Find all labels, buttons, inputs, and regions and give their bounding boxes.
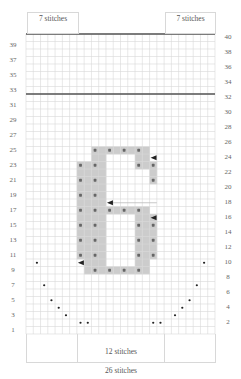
purl-dot-icon bbox=[123, 149, 126, 152]
arrow-left-icon bbox=[151, 155, 157, 160]
purl-dot-icon bbox=[79, 239, 82, 242]
purl-dot-icon bbox=[152, 224, 155, 227]
purl-dot-icon bbox=[137, 224, 140, 227]
motif-cell bbox=[150, 244, 158, 252]
motif-cell bbox=[84, 177, 92, 185]
motif-cell bbox=[142, 252, 150, 260]
purl-dot-icon bbox=[108, 149, 111, 152]
motif-cell bbox=[84, 267, 92, 275]
row-label: 35 bbox=[6, 72, 20, 79]
row-label: 36 bbox=[221, 64, 235, 71]
bottom-outer-stitch-label: 26 stitches bbox=[26, 366, 216, 375]
decrease-dot-icon bbox=[43, 284, 45, 286]
top-right-stitch-label: 7 stitches bbox=[165, 14, 216, 23]
motif-cell bbox=[84, 169, 92, 177]
motif-cell bbox=[142, 147, 150, 155]
motif-cell bbox=[99, 229, 107, 237]
motif-cell bbox=[135, 229, 143, 237]
purl-dot-icon bbox=[152, 164, 155, 167]
motif-cell bbox=[84, 199, 92, 207]
decrease-dot-icon bbox=[50, 299, 52, 301]
decrease-dot-icon bbox=[65, 314, 67, 316]
motif-cell bbox=[77, 199, 85, 207]
motif-cell bbox=[99, 154, 107, 162]
row-label: 34 bbox=[221, 79, 235, 86]
motif-cell bbox=[91, 184, 99, 192]
purl-dot-icon bbox=[152, 239, 155, 242]
decrease-dot-icon bbox=[174, 314, 176, 316]
decrease-dot-icon bbox=[58, 307, 60, 309]
motif-cell bbox=[99, 192, 107, 200]
decrease-dot-icon bbox=[159, 322, 161, 324]
motif-cell bbox=[99, 244, 107, 252]
chart-grid bbox=[0, 0, 241, 379]
motif-cell bbox=[84, 237, 92, 245]
motif-cell bbox=[142, 237, 150, 245]
motif-cell bbox=[142, 207, 150, 215]
motif-cell bbox=[135, 214, 143, 222]
row-label: 22 bbox=[221, 169, 235, 176]
motif-cell bbox=[84, 207, 92, 215]
row-label: 23 bbox=[6, 162, 20, 169]
purl-dot-icon bbox=[137, 254, 140, 257]
purl-dot-icon bbox=[108, 269, 111, 272]
purl-dot-icon bbox=[123, 209, 126, 212]
row-label: 16 bbox=[221, 214, 235, 221]
motif-cell bbox=[142, 162, 150, 170]
motif-cell bbox=[84, 222, 92, 230]
purl-dot-icon bbox=[94, 239, 97, 242]
motif-cell bbox=[99, 184, 107, 192]
purl-dot-icon bbox=[79, 164, 82, 167]
motif-cell bbox=[99, 207, 107, 215]
motif-cell bbox=[99, 259, 107, 267]
motif-cell bbox=[99, 162, 107, 170]
motif-cell bbox=[128, 207, 136, 215]
motif-cell bbox=[91, 259, 99, 267]
motif-cell bbox=[84, 162, 92, 170]
row-label: 18 bbox=[221, 199, 235, 206]
motif-cell bbox=[91, 214, 99, 222]
motif-cell bbox=[99, 147, 107, 155]
decrease-dot-icon bbox=[188, 299, 190, 301]
bottom-outer-stitch-box bbox=[26, 334, 216, 363]
row-label: 20 bbox=[221, 184, 235, 191]
row-label: 37 bbox=[6, 57, 20, 64]
motif-cell bbox=[142, 259, 150, 267]
motif-cell bbox=[91, 229, 99, 237]
motif-cell bbox=[77, 229, 85, 237]
row-label: 3 bbox=[6, 312, 20, 319]
row-label: 7 bbox=[6, 282, 20, 289]
motif-cell bbox=[77, 244, 85, 252]
row-label: 27 bbox=[6, 132, 20, 139]
row-label: 15 bbox=[6, 222, 20, 229]
motif-cell bbox=[99, 214, 107, 222]
motif-cell bbox=[84, 252, 92, 260]
row-label: 4 bbox=[221, 304, 235, 311]
motif-cell bbox=[99, 252, 107, 260]
motif-cell bbox=[84, 229, 92, 237]
motif-cell bbox=[91, 199, 99, 207]
purl-dot-icon bbox=[152, 254, 155, 257]
motif-cell bbox=[84, 244, 92, 252]
purl-dot-icon bbox=[79, 209, 82, 212]
row-label: 31 bbox=[6, 102, 20, 109]
motif-cell bbox=[150, 169, 158, 177]
row-label: 19 bbox=[6, 192, 20, 199]
motif-cell bbox=[128, 147, 136, 155]
decrease-dot-icon bbox=[181, 307, 183, 309]
row-label: 32 bbox=[221, 94, 235, 101]
purl-dot-icon bbox=[94, 269, 97, 272]
motif-cell bbox=[150, 229, 158, 237]
motif-cell bbox=[113, 147, 121, 155]
decrease-dot-icon bbox=[203, 262, 205, 264]
motif-cell bbox=[142, 222, 150, 230]
purl-dot-icon bbox=[137, 239, 140, 242]
purl-dot-icon bbox=[137, 164, 140, 167]
arrow-left-icon bbox=[107, 200, 113, 205]
motif-cell bbox=[142, 267, 150, 275]
motif-cell bbox=[84, 184, 92, 192]
purl-dot-icon bbox=[79, 194, 82, 197]
row-label: 39 bbox=[6, 42, 20, 49]
purl-dot-icon bbox=[94, 164, 97, 167]
purl-dot-icon bbox=[79, 224, 82, 227]
